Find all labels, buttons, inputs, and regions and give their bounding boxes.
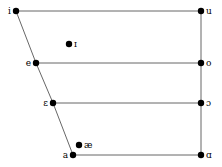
- chart-line-left-edge-lower: [53, 103, 73, 155]
- vowel-label-0: i: [8, 7, 11, 16]
- vowel-label-3: e: [26, 59, 31, 68]
- vowel-label-1: u: [206, 7, 212, 16]
- vowel-point-9[interactable]: [198, 152, 204, 158]
- vowel-chart: iuɪeoɛɔæaɑ: [0, 0, 222, 167]
- vowel-label-5: ɛ: [43, 99, 48, 108]
- vowel-label-9: ɑ: [206, 151, 212, 160]
- vowel-label-8: a: [63, 151, 68, 160]
- vowel-label-4: o: [206, 59, 211, 68]
- vowel-point-6[interactable]: [198, 100, 204, 106]
- vowel-label-2: ɪ: [74, 40, 77, 49]
- vowel-point-3[interactable]: [33, 60, 39, 66]
- chart-lines-layer: [16, 11, 201, 155]
- vowel-point-2[interactable]: [66, 41, 72, 47]
- vowel-point-7[interactable]: [76, 142, 82, 148]
- vowel-point-8[interactable]: [70, 152, 76, 158]
- vowel-label-6: ɔ: [206, 99, 211, 108]
- vowel-label-7: æ: [84, 141, 92, 150]
- vowel-quadrilateral-svg: [0, 0, 222, 167]
- vowel-point-1[interactable]: [198, 8, 204, 14]
- vowel-point-4[interactable]: [198, 60, 204, 66]
- chart-line-left-edge-upper: [16, 11, 36, 63]
- chart-points-layer: [13, 8, 204, 158]
- vowel-point-0[interactable]: [13, 8, 19, 14]
- vowel-point-5[interactable]: [50, 100, 56, 106]
